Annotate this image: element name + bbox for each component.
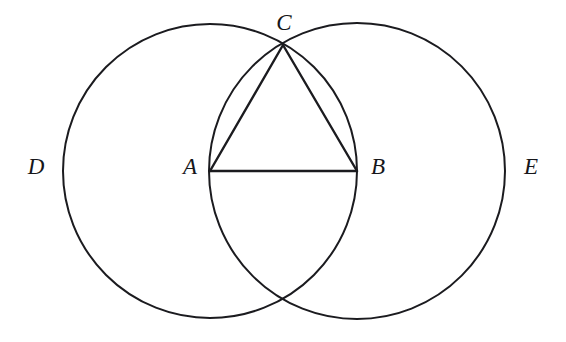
point-label-b: B — [371, 155, 385, 178]
point-label-c: C — [276, 11, 291, 34]
point-label-d: D — [28, 155, 45, 178]
point-label-e: E — [524, 155, 538, 178]
geometry-canvas — [0, 0, 566, 342]
geometry-figure: A B C D E — [0, 0, 566, 342]
point-label-a: A — [183, 155, 197, 178]
